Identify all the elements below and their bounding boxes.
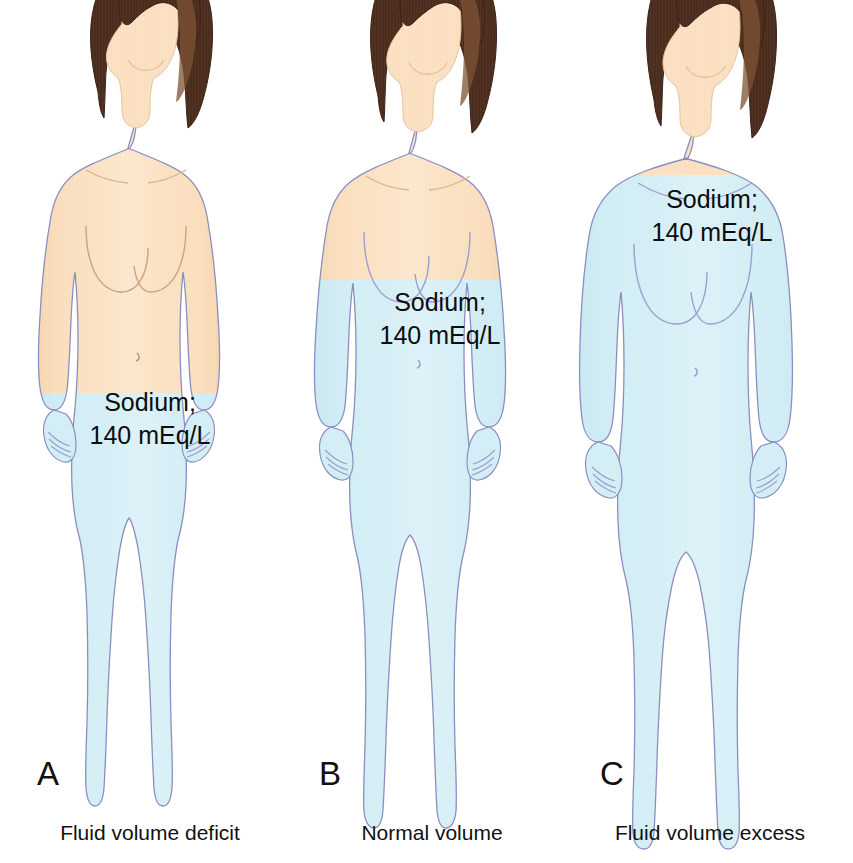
panel-letter-a: A (37, 755, 59, 792)
panel-letter-c: C (600, 755, 624, 792)
figure-panel: Sodium; 140 mEq/L (0, 0, 853, 863)
panel-c-figure: Sodium; 140 mEq/L (580, 0, 793, 849)
sodium-label-a-line1: Sodium; (104, 388, 196, 416)
panel-letter-b: B (319, 755, 341, 792)
hand-left-a (43, 410, 76, 462)
sodium-label-a-line2: 140 mEq/L (90, 421, 211, 449)
panel-caption-c: Fluid volume excess (615, 821, 805, 844)
sodium-label-c-line1: Sodium; (666, 185, 758, 213)
panel-a-figure: Sodium; 140 mEq/L (39, 0, 220, 806)
panel-caption-a: Fluid volume deficit (60, 821, 240, 844)
fluid-volume-illustration: Sodium; 140 mEq/L (0, 0, 853, 863)
hand-right-b (467, 427, 501, 480)
panel-caption-b: Normal volume (361, 821, 502, 844)
panel-b-figure: Sodium; 140 mEq/L (315, 0, 506, 828)
hand-left-b (319, 427, 353, 480)
sodium-label-b-line1: Sodium; (394, 288, 486, 316)
sodium-label-b-line2: 140 mEq/L (380, 321, 501, 349)
sodium-label-c-line2: 140 mEq/L (652, 218, 773, 246)
hand-right-c (750, 442, 787, 498)
hand-left-c (586, 442, 623, 498)
